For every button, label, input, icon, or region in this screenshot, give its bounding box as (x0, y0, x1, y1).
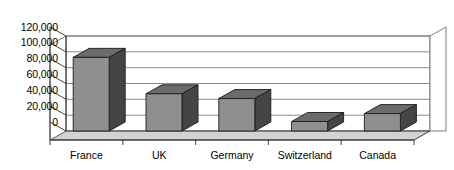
y-axis-tick-label: 0 (0, 117, 58, 128)
bar-front-face (219, 99, 255, 131)
bar-germany[interactable] (219, 90, 271, 131)
x-axis-category-label: France (70, 150, 103, 161)
bar-front-face (73, 57, 109, 131)
y-axis-tick-label: 60,000 (0, 69, 58, 80)
y-axis-tick-label: 80,000 (0, 53, 58, 64)
chart-canvas (0, 0, 454, 170)
bar-uk[interactable] (146, 85, 198, 131)
x-axis-ticks (50, 140, 414, 145)
bar-front-face (146, 94, 182, 131)
y-axis-tick-label: 120,000 (0, 22, 58, 33)
y-axis-tick-label: 100,000 (0, 37, 58, 48)
x-axis-category-label: UK (152, 150, 167, 161)
bar-side-face (109, 48, 125, 131)
x-axis-category-label: Canada (359, 150, 396, 161)
x-axis-category-label: Switzerland (278, 150, 332, 161)
x-axis-category-label: Germany (210, 150, 253, 161)
bar-chart: 120,000 100,000 80,000 60,000 40,000 20,… (0, 0, 454, 170)
y-axis-tick-label: 40,000 (0, 85, 58, 96)
bar-france[interactable] (73, 48, 125, 131)
right-wall (430, 27, 446, 131)
bar-front-face (364, 114, 400, 131)
y-axis-tick-label: 20,000 (0, 101, 58, 112)
bar-front-face (292, 122, 328, 132)
chart-floor (50, 131, 430, 140)
